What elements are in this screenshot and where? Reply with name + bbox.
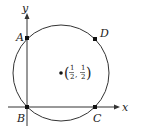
circle-diagram: x y A B C D ( 1 2 , 1 2 ) [0, 0, 141, 135]
svg-text:2: 2 [81, 73, 85, 81]
svg-text:): ) [86, 65, 91, 81]
point-c [93, 105, 97, 109]
svg-text:2: 2 [70, 73, 74, 81]
x-axis-arrow-icon [114, 105, 120, 110]
point-d [93, 37, 97, 41]
svg-text:1: 1 [70, 64, 74, 72]
y-axis-label: y [21, 2, 29, 15]
svg-text:,: , [75, 70, 78, 79]
point-a [25, 36, 29, 40]
svg-text:1: 1 [81, 64, 85, 72]
point-b-label: B [16, 112, 25, 125]
center-point [59, 71, 63, 75]
point-a-label: A [15, 31, 24, 44]
point-b [25, 105, 29, 109]
point-c-label: C [93, 112, 102, 125]
center-label: ( 1 2 , 1 2 ) [64, 64, 91, 81]
x-axis-label: x [122, 101, 129, 114]
point-d-label: D [99, 27, 109, 40]
svg-text:(: ( [64, 65, 69, 81]
